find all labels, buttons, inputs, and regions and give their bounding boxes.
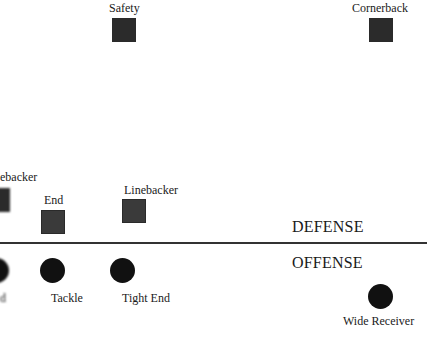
tight-end-marker-circle [110,258,135,283]
offense-end-label: d [0,291,6,305]
safety-label: Safety [109,1,140,15]
wide-receiver-marker-circle [368,284,393,309]
cornerback-label: Cornerback [352,1,408,15]
end-marker-square [41,210,65,234]
tight-end-label: Tight End [122,291,170,305]
defense-heading: DEFENSE [292,218,364,236]
outside-linebacker-marker-square [0,188,10,212]
end-label: End [44,193,63,207]
end-marker-circle [0,258,9,283]
wide-receiver-label: Wide Receiver [343,314,414,328]
safety-marker-square [112,18,136,42]
tackle-marker-circle [40,258,65,283]
cornerback-marker-square [369,18,393,42]
tackle-label: Tackle [51,291,83,305]
outside-linebacker-label: ebacker [0,170,37,184]
linebacker-label: Linebacker [124,183,178,197]
offense-heading: OFFENSE [292,254,363,272]
line-of-scrimmage [0,242,427,244]
linebacker-marker-square [122,199,146,223]
